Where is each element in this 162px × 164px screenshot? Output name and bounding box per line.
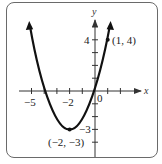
- x-axis-label: x: [143, 85, 149, 96]
- vertex-label: (−2, −3): [48, 136, 85, 149]
- tick-label-4: 4: [84, 34, 90, 46]
- vertex-point: [68, 127, 72, 131]
- point-1-4: [106, 38, 110, 42]
- tick-label-neg5: −5: [24, 96, 36, 108]
- curve-arrow-left: [26, 21, 33, 30]
- curve-arrow-right: [107, 21, 114, 30]
- parabola-graph: y x −5 −2 0 4 −3 (1, 4) (−2, −3): [0, 0, 162, 164]
- y-axis-label: y: [91, 6, 97, 17]
- tick-label-0: 0: [97, 92, 103, 104]
- tick-label-neg2: −2: [62, 96, 74, 108]
- parabola-curve: [30, 26, 110, 130]
- tick-label-neg3: −3: [79, 123, 91, 135]
- point-label-1-4: (1, 4): [112, 34, 136, 47]
